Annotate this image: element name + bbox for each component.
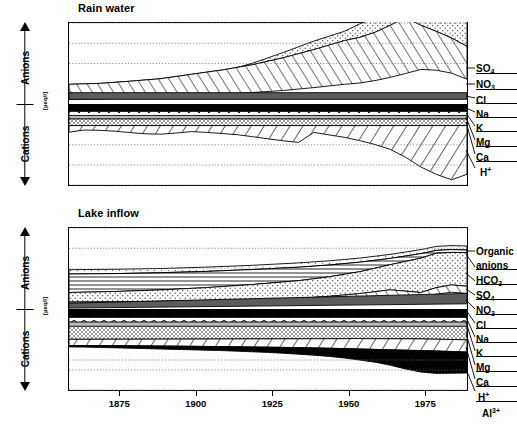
anion-cation-axis-bottom: Anions Cations: [14, 227, 36, 391]
xtick-mark: [119, 391, 120, 396]
xtick-mark: [425, 391, 426, 396]
ytick-mark: [68, 349, 69, 350]
y-unit-label-top: [µeq/l]: [42, 92, 48, 110]
panel-title-rain-water: Rain water: [78, 2, 135, 14]
legend-lake-inflow: Organic anions HCO3 SO4 NO3 Cl: [466, 227, 517, 397]
band-na-bottom: [69, 309, 467, 318]
plot-area-rain-water: 200 100 0 100 200: [68, 22, 468, 186]
band-mg-bottom: [69, 322, 467, 326]
axis-midpoint-tick: [17, 104, 34, 105]
arrow-down-icon: [20, 177, 30, 186]
ytick-mark: [68, 144, 69, 145]
ytick-mark: [68, 103, 69, 104]
anions-label-bottom: Anions: [20, 256, 31, 290]
band-ca-bottom: [69, 326, 467, 340]
legend-item-h: H+: [480, 162, 491, 180]
anions-label-top: Anions: [20, 51, 31, 85]
ytick-mark: [68, 63, 69, 64]
cations-label-top: Cations: [20, 126, 31, 163]
panel-lake-inflow: Lake inflow Anions Cations [µeq/l]: [0, 207, 517, 428]
ytick-mark: [68, 268, 69, 269]
ytick-mark: [68, 227, 69, 228]
arrow-down-icon: [20, 382, 30, 391]
anion-cation-axis-top: Anions Cations: [14, 22, 36, 186]
xtick-mark: [196, 391, 197, 396]
legend-rule: [476, 401, 517, 402]
legend-item-al3: Al3+: [482, 403, 500, 421]
band-na-top: [69, 104, 467, 111]
band-cl-top: [69, 93, 467, 100]
axis-midpoint-tick: [17, 309, 34, 310]
panel-title-lake-inflow: Lake inflow: [78, 207, 139, 219]
band-k-bottom: [69, 318, 467, 323]
plot-area-lake-inflow: 400 200 0 200 400: [68, 227, 468, 391]
legend-sup: +: [487, 166, 491, 173]
y-unit-label-bottom: [µeq/l]: [42, 297, 48, 315]
band-mg-top: [69, 116, 467, 119]
legend-sup: 3+: [492, 407, 500, 414]
xtick-label: 1900: [185, 398, 206, 409]
xtick-mark: [349, 391, 350, 396]
xtick-mark: [272, 391, 273, 396]
xtick-label: 1925: [262, 398, 283, 409]
xtick-label: 1950: [338, 398, 359, 409]
cations-label-bottom: Cations: [20, 331, 31, 368]
lake-inflow-stacked-areas: [69, 227, 467, 391]
ion-balance-figure: Rain water Anions Cations [µeq/l]: [0, 0, 517, 428]
x-axis-bottom: 1875 1900 1925 1950 1975: [68, 391, 466, 421]
legend-sup: +: [485, 391, 489, 398]
legend-rain-water: SO4 NO3 Cl Na K Mg C: [466, 22, 517, 186]
ytick-mark: [68, 22, 69, 23]
ytick-mark: [68, 308, 69, 309]
xtick-label: 1975: [415, 398, 436, 409]
arrow-up-icon: [20, 227, 30, 236]
arrow-up-icon: [20, 22, 30, 31]
ytick-mark: [68, 184, 69, 185]
panel-rain-water: Rain water Anions Cations [µeq/l]: [0, 0, 517, 210]
legend-label: Al: [482, 408, 492, 419]
xtick-label: 1875: [109, 398, 130, 409]
band-k-top: [69, 111, 467, 115]
band-h-top: [69, 126, 467, 180]
rain-water-stacked-areas: [69, 22, 467, 186]
